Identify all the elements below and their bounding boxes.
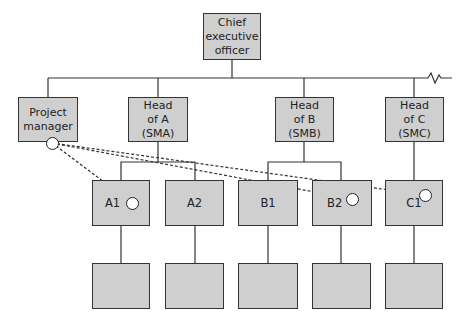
b2-link-node-icon: [346, 193, 359, 206]
ceo-box: Chief executive officer: [203, 13, 261, 60]
c1-box: C1: [385, 180, 443, 226]
head-of-b-box: Head of B (SMB): [275, 97, 334, 142]
head-of-a-box: Head of A (SMA): [128, 97, 188, 142]
c1-sub-box: [385, 263, 443, 309]
a1-box: A1: [92, 180, 150, 226]
b2-sub-box: [312, 263, 371, 309]
head-of-c-box: Head of C (SMC): [385, 97, 444, 142]
a1-sub-box: [92, 263, 150, 309]
b2-box: B2: [312, 180, 372, 226]
c1-link-node-icon: [419, 189, 432, 202]
pm-link-node-icon: [46, 137, 59, 150]
a1-link-node-icon: [126, 197, 139, 210]
b1-sub-box: [238, 263, 298, 309]
a2-box: A2: [165, 180, 224, 226]
project-manager-box: Project manager: [18, 97, 78, 142]
b1-box: B1: [238, 180, 298, 226]
a2-sub-box: [165, 263, 224, 309]
